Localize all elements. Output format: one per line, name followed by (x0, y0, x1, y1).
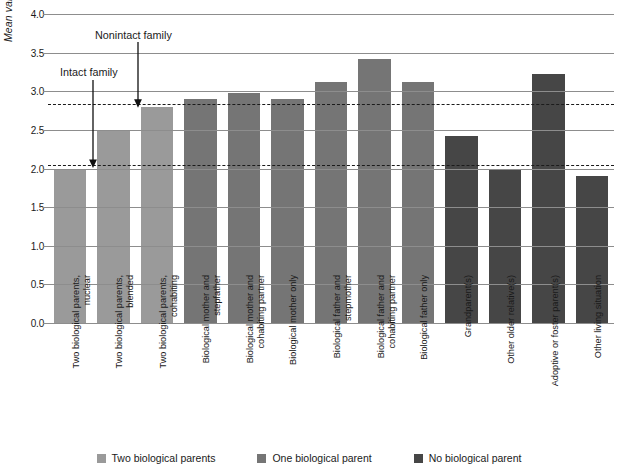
x-tick-label: Biological father and cohabiting partner (376, 273, 397, 387)
gridline (48, 246, 614, 247)
x-tick-label: Grandparent(s) (463, 273, 474, 387)
y-tick-mark (43, 130, 48, 131)
annotation-nonintact-family: Nonintact family (95, 29, 172, 41)
legend-item: One biological parent (257, 452, 371, 464)
y-tick-label: 2.0 (12, 163, 44, 174)
y-tick-mark (43, 169, 48, 170)
gridline (48, 130, 614, 131)
chart-figure: Mean variety of antisocial behavior 0.00… (0, 0, 618, 475)
y-tick-label: 4.0 (12, 9, 44, 20)
y-tick-mark (43, 53, 48, 54)
x-axis-labels: Two biological parents, nuclearTwo biolo… (48, 326, 614, 444)
y-axis-ticks: 0.00.51.01.52.02.53.03.54.0 (6, 0, 44, 340)
y-tick-label: 2.5 (12, 124, 44, 135)
reference-line-intact-family (48, 165, 614, 166)
y-tick-mark (43, 246, 48, 247)
legend-swatch-icon (97, 454, 106, 463)
legend-label: Two biological parents (112, 452, 216, 464)
gridline (48, 53, 614, 54)
legend-item: Two biological parents (97, 452, 216, 464)
y-tick-label: 1.5 (12, 202, 44, 213)
x-tick-label: Biological father only (419, 273, 430, 387)
legend-swatch-icon (414, 454, 423, 463)
x-tick-label: Biological mother only (288, 273, 299, 387)
x-tick-label: Two biological parents, blended (114, 273, 135, 387)
gridline (48, 91, 614, 92)
y-tick-mark (43, 207, 48, 208)
reference-line-nonintact-family (48, 104, 614, 105)
x-tick-label: Other older relative(s) (506, 273, 517, 387)
x-tick-label: Biological mother and stepfather (201, 273, 222, 387)
y-tick-mark (43, 91, 48, 92)
y-tick-label: 0.5 (12, 279, 44, 290)
annotation-intact-family: Intact family (60, 66, 118, 78)
x-tick-label: Other living situation (593, 273, 604, 387)
chart-legend: Two biological parentsOne biological par… (0, 452, 618, 464)
legend-label: One biological parent (272, 452, 371, 464)
y-tick-label: 0.0 (12, 318, 44, 329)
gridline (48, 14, 614, 15)
legend-item: No biological parent (414, 452, 522, 464)
x-tick-label: Biological father and stepmother (332, 273, 353, 387)
y-tick-label: 3.5 (12, 47, 44, 58)
legend-label: No biological parent (429, 452, 522, 464)
gridline (48, 207, 614, 208)
x-tick-label: Adoptive or foster parent(s) (550, 273, 561, 387)
x-tick-label: Two biological parents, nuclear (71, 273, 92, 387)
y-tick-mark (43, 284, 48, 285)
x-tick-label: Biological mother and cohabiting partner (245, 273, 266, 387)
x-tick-label: Two biological parents, cohabiting (158, 273, 179, 387)
y-tick-label: 3.0 (12, 86, 44, 97)
y-tick-label: 1.0 (12, 240, 44, 251)
legend-swatch-icon (257, 454, 266, 463)
y-tick-mark (43, 14, 48, 15)
gridline (48, 169, 614, 170)
